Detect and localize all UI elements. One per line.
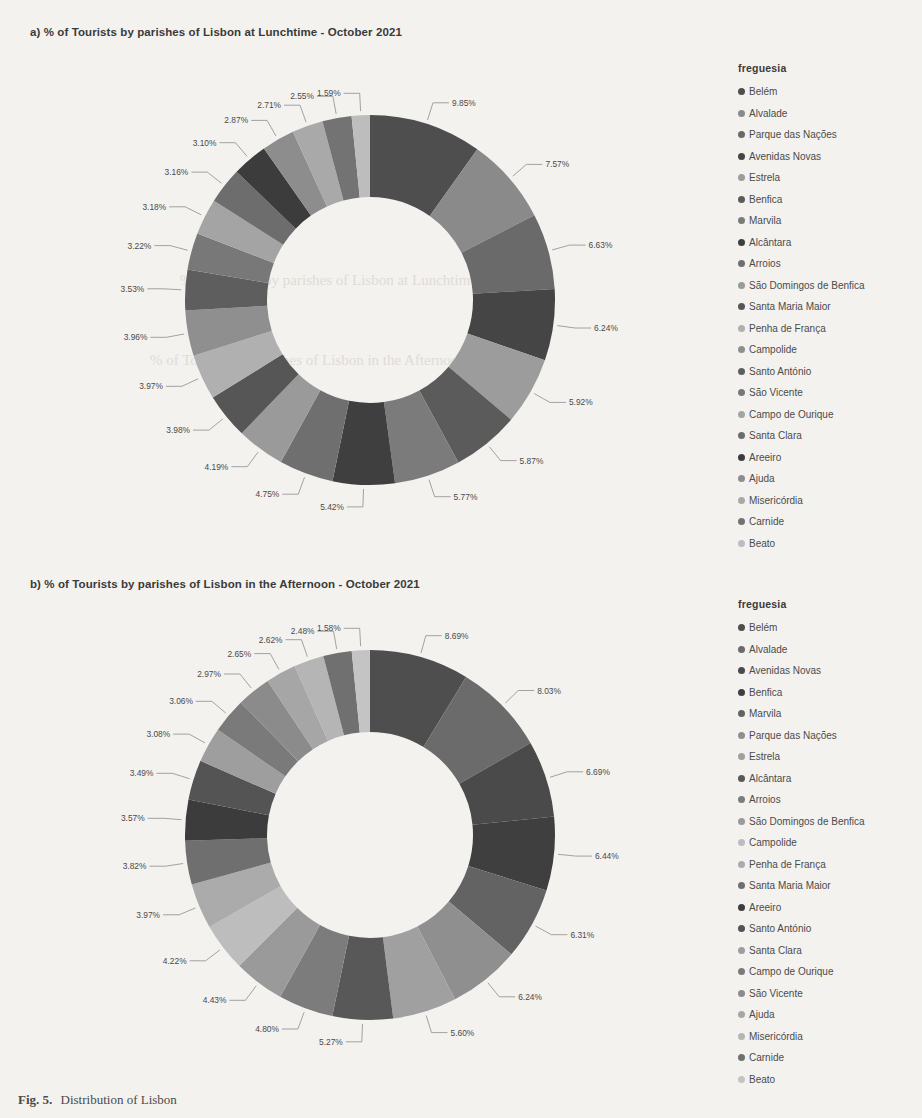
legend-swatch-icon bbox=[738, 667, 745, 674]
legend-item-label: Benfica bbox=[749, 687, 782, 698]
legend-item-label: Campo de Ourique bbox=[749, 966, 834, 977]
legend-item[interactable]: Parque das Nações bbox=[738, 124, 865, 146]
legend-item[interactable]: Misericórdia bbox=[738, 490, 865, 512]
slice-leader-line bbox=[147, 289, 181, 290]
legend-swatch-icon bbox=[738, 303, 745, 310]
legend-item-label: Areeiro bbox=[749, 902, 781, 913]
legend-item[interactable]: Beato bbox=[738, 1069, 865, 1091]
legend-item[interactable]: Alcântara bbox=[738, 232, 865, 254]
slice-value-label: 4.19% bbox=[205, 462, 229, 472]
legend-item[interactable]: Santa Maria Maior bbox=[738, 875, 865, 897]
legend-item-label: Arroios bbox=[749, 258, 781, 269]
legend-item[interactable]: Carnide bbox=[738, 511, 865, 533]
slice-leader-line bbox=[347, 489, 364, 507]
slice-value-label: 3.98% bbox=[166, 425, 190, 435]
legend-item[interactable]: Santa Clara bbox=[738, 425, 865, 447]
legend-item[interactable]: Estrela bbox=[738, 167, 865, 189]
chart-b-title: b) % of Tourists by parishes of Lisbon i… bbox=[30, 578, 420, 590]
slice-leader-line bbox=[558, 854, 592, 856]
slice-value-label: 2.65% bbox=[227, 649, 251, 659]
legend-swatch-icon bbox=[738, 818, 745, 825]
legend-item[interactable]: Carnide bbox=[738, 1047, 865, 1069]
legend-item[interactable]: Estrela bbox=[738, 746, 865, 768]
legend-item-label: Benfica bbox=[749, 194, 782, 205]
legend-swatch-icon bbox=[738, 1076, 745, 1083]
legend-swatch-icon bbox=[738, 497, 745, 504]
slice-value-label: 5.60% bbox=[451, 1028, 475, 1038]
legend-item-label: Marvila bbox=[749, 215, 781, 226]
legend-item[interactable]: São Domingos de Benfica bbox=[738, 811, 865, 833]
legend-item[interactable]: Campo de Ourique bbox=[738, 404, 865, 426]
legend-item[interactable]: Avenidas Novas bbox=[738, 660, 865, 682]
legend-item[interactable]: Ajuda bbox=[738, 468, 865, 490]
legend-item-label: Carnide bbox=[749, 1052, 784, 1063]
legend-swatch-icon bbox=[738, 346, 745, 353]
legend-item[interactable]: Santo António bbox=[738, 918, 865, 940]
legend-item[interactable]: Beato bbox=[738, 533, 865, 555]
legend-swatch-icon bbox=[738, 411, 745, 418]
legend-item[interactable]: Benfica bbox=[738, 189, 865, 211]
legend-item-label: Parque das Nações bbox=[749, 129, 837, 140]
legend-item-label: Santa Clara bbox=[749, 430, 802, 441]
legend-item[interactable]: Alvalade bbox=[738, 639, 865, 661]
legend-item[interactable]: Santa Maria Maior bbox=[738, 296, 865, 318]
legend-item[interactable]: Marvila bbox=[738, 210, 865, 232]
slice-value-label: 5.92% bbox=[569, 397, 593, 407]
chart-b-donut: 8.69%8.03%6.69%6.44%6.31%6.24%5.60%5.27%… bbox=[90, 610, 650, 1080]
legend-item-label: Santa Clara bbox=[749, 945, 802, 956]
slice-leader-line bbox=[505, 691, 534, 704]
slice-value-label: 8.03% bbox=[537, 686, 561, 696]
slice-leader-line bbox=[489, 447, 516, 461]
legend-item-label: Areeiro bbox=[749, 452, 781, 463]
legend-item[interactable]: Areeiro bbox=[738, 447, 865, 469]
legend-swatch-icon bbox=[738, 239, 745, 246]
legend-item[interactable]: Belém bbox=[738, 81, 865, 103]
legend-swatch-icon bbox=[738, 432, 745, 439]
slice-value-label: 7.57% bbox=[545, 159, 569, 169]
legend-item[interactable]: Parque das Nações bbox=[738, 725, 865, 747]
legend-swatch-icon bbox=[738, 1054, 745, 1061]
legend-item[interactable]: Campo de Ourique bbox=[738, 961, 865, 983]
legend-item[interactable]: Belém bbox=[738, 617, 865, 639]
legend-item[interactable]: Benfica bbox=[738, 682, 865, 704]
slice-leader-line bbox=[421, 636, 442, 653]
legend-item[interactable]: Ajuda bbox=[738, 1004, 865, 1026]
legend-item[interactable]: Marvila bbox=[738, 703, 865, 725]
legend-item[interactable]: Santa Clara bbox=[738, 940, 865, 962]
legend-item[interactable]: São Domingos de Benfica bbox=[738, 275, 865, 297]
legend-item[interactable]: Penha de França bbox=[738, 854, 865, 876]
legend-item[interactable]: Campolide bbox=[738, 832, 865, 854]
legend-swatch-icon bbox=[738, 796, 745, 803]
legend-item[interactable]: São Vicente bbox=[738, 382, 865, 404]
legend-item[interactable]: Arroios bbox=[738, 789, 865, 811]
slice-leader-line bbox=[169, 207, 201, 215]
legend-item[interactable]: Arroios bbox=[738, 253, 865, 275]
legend-item-label: Alvalade bbox=[749, 644, 787, 655]
legend-item[interactable]: Penha de França bbox=[738, 318, 865, 340]
legend-item[interactable]: Campolide bbox=[738, 339, 865, 361]
slice-value-label: 2.62% bbox=[259, 635, 283, 645]
legend-item-label: São Vicente bbox=[749, 988, 803, 999]
legend-swatch-icon bbox=[738, 990, 745, 997]
legend-swatch-icon bbox=[738, 710, 745, 717]
legend-item[interactable]: Misericórdia bbox=[738, 1026, 865, 1048]
legend-item[interactable]: Avenidas Novas bbox=[738, 146, 865, 168]
slice-value-label: 2.48% bbox=[291, 626, 315, 636]
legend-item-label: Carnide bbox=[749, 516, 784, 527]
legend-item[interactable]: São Vicente bbox=[738, 983, 865, 1005]
legend-item[interactable]: Santo António bbox=[738, 361, 865, 383]
legend-item[interactable]: Areeiro bbox=[738, 897, 865, 919]
slice-value-label: 1.59% bbox=[317, 88, 341, 98]
legend-swatch-icon bbox=[738, 518, 745, 525]
legend-item[interactable]: Alcântara bbox=[738, 768, 865, 790]
slice-leader-line bbox=[163, 908, 196, 915]
legend-swatch-icon bbox=[738, 475, 745, 482]
slice-value-label: 3.57% bbox=[121, 813, 145, 823]
figure-page: % of Tourists by parishes of Lisbon at L… bbox=[0, 0, 922, 1118]
slice-leader-line bbox=[156, 773, 189, 778]
slice-value-label: 3.18% bbox=[142, 202, 166, 212]
legend-swatch-icon bbox=[738, 217, 745, 224]
chart-b-legend: freguesia BelémAlvaladeAvenidas NovasBen… bbox=[738, 598, 865, 1090]
legend-item[interactable]: Alvalade bbox=[738, 103, 865, 125]
slice-leader-line bbox=[196, 701, 226, 713]
